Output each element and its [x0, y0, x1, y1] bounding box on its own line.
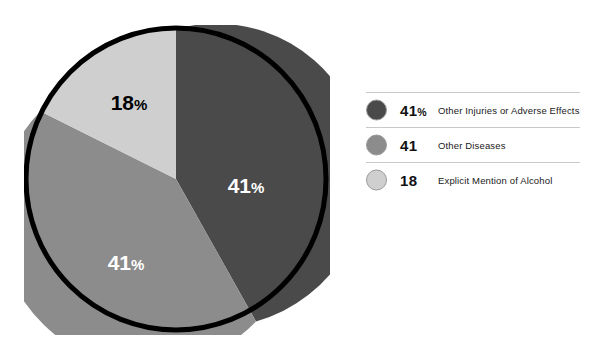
chart-legend: 41% Other Injuries or Adverse Effects 41… — [366, 92, 580, 197]
legend-item-other-diseases[interactable]: 41 Other Diseases — [366, 127, 580, 162]
pie-chart: 41% 41% 18% — [24, 25, 330, 335]
legend-value: 41% — [400, 102, 427, 119]
legend-swatch-icon — [366, 135, 387, 156]
legend-item-other-injuries[interactable]: 41% Other Injuries or Adverse Effects — [366, 92, 580, 127]
legend-value: 18 — [400, 172, 417, 189]
legend-value: 41 — [400, 137, 417, 154]
pie-chart-svg: 41% 41% 18% — [24, 25, 330, 335]
legend-label: Other Diseases — [438, 140, 506, 151]
legend-label: Other Injuries or Adverse Effects — [438, 105, 580, 116]
legend-swatch-icon — [366, 170, 387, 191]
legend-label: Explicit Mention of Alcohol — [438, 175, 552, 186]
legend-item-explicit-alcohol[interactable]: 18 Explicit Mention of Alcohol — [366, 162, 580, 197]
legend-swatch-icon — [366, 100, 387, 121]
pie-chart-figure: 41% 41% 18% 41% Other Injuries or Advers… — [0, 0, 594, 351]
